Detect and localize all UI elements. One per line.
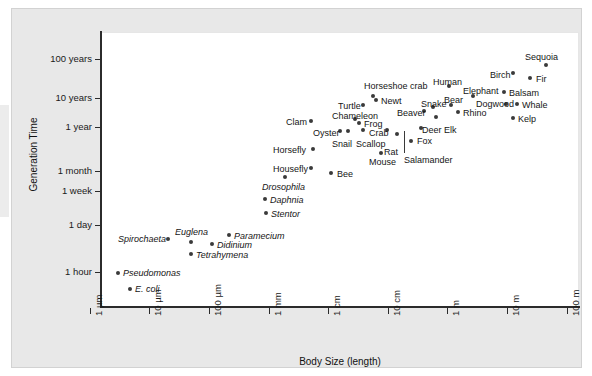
data-point-label: Rhino — [463, 109, 487, 118]
data-point-label: Kelp — [518, 115, 536, 124]
data-point-label: Bear — [444, 96, 463, 105]
y-tick-mark — [95, 127, 101, 128]
rat-leader-line — [404, 131, 405, 153]
data-point-label: Horsefly — [273, 146, 306, 155]
data-point-label: Tetrahymena — [196, 251, 248, 260]
data-point — [361, 103, 365, 107]
data-point — [379, 151, 383, 155]
y-tick-label-wrap: 1 month — [12, 166, 92, 176]
y-tick-mark — [95, 272, 101, 273]
data-point — [264, 211, 268, 215]
y-tick-mark — [95, 191, 101, 192]
data-point — [116, 271, 120, 275]
y-axis-title: Generation Time — [28, 95, 39, 215]
y-tick-mark — [95, 59, 101, 60]
data-point-label: Daphnia — [270, 196, 304, 205]
figure-root: 100 years10 years1 year1 month1 week1 da… — [0, 0, 592, 376]
data-point-label: Scallop — [356, 140, 386, 149]
data-point-label: Drosophila — [262, 183, 305, 192]
data-point-label: Bee — [337, 170, 353, 179]
data-point — [456, 110, 460, 114]
x-tick-mark — [149, 308, 150, 314]
x-tick-label: 10 cm — [392, 290, 402, 316]
data-point — [227, 233, 231, 237]
x-tick-label: 100 m — [571, 290, 581, 316]
x-tick-label: 10 m — [511, 295, 521, 316]
data-point — [434, 115, 438, 119]
data-point-label: Sequoia — [525, 53, 558, 62]
data-point — [409, 139, 413, 143]
x-tick-label: 1 mm — [273, 292, 283, 316]
data-point — [309, 119, 313, 123]
data-point-label: Dogwood — [476, 100, 514, 109]
data-point-label: Human — [433, 78, 462, 87]
x-tick-label: 1 m — [451, 300, 461, 316]
y-tick-label: 100 years — [50, 54, 92, 64]
data-point — [357, 121, 361, 125]
y-tick-label: 1 day — [69, 220, 92, 230]
data-point-label: Salamander — [404, 156, 453, 165]
chart-card: 100 years10 years1 year1 month1 week1 da… — [11, 8, 582, 368]
data-point-label: Clam — [286, 118, 307, 127]
data-point-label: Oyster — [313, 129, 340, 138]
y-tick-mark — [95, 98, 101, 99]
y-tick-mark — [95, 171, 101, 172]
data-point-label: Whale — [522, 101, 548, 110]
data-point — [263, 197, 267, 201]
data-point-label: Didinium — [217, 241, 252, 250]
data-point-label: Stentor — [271, 210, 300, 219]
y-tick-mark — [95, 225, 101, 226]
data-point-label: Fir — [536, 75, 547, 84]
page-gutter-band — [0, 105, 9, 217]
x-tick-mark — [447, 308, 448, 314]
x-tick-label: 100 µm — [213, 284, 223, 316]
x-tick-label: 1 cm — [332, 295, 342, 316]
page-gutter — [0, 0, 11, 376]
y-axis-line — [100, 31, 102, 308]
data-point-label: Elephant — [463, 87, 499, 96]
data-point — [189, 252, 193, 256]
data-point-label: E. coli — [135, 285, 160, 294]
data-point-label: Balsam — [509, 89, 539, 98]
data-point — [502, 90, 506, 94]
data-point — [515, 102, 519, 106]
data-point — [395, 132, 399, 136]
x-tick-mark — [567, 308, 568, 314]
y-tick-label: 1 hour — [65, 267, 92, 277]
data-point — [511, 71, 515, 75]
x-tick-mark — [209, 308, 210, 314]
data-point-label: Spirochaeta — [118, 235, 166, 244]
data-point-label: Pseudomonas — [123, 269, 181, 278]
y-tick-label-wrap: 10 years — [12, 93, 92, 103]
data-point-label: Birch — [490, 71, 511, 80]
data-point — [374, 98, 378, 102]
data-point-label: Euglena — [175, 228, 208, 237]
data-point — [189, 240, 193, 244]
data-point-label: Deer Elk — [422, 126, 457, 135]
data-point — [511, 116, 515, 120]
data-point-label: Snail — [332, 140, 352, 149]
data-point — [371, 94, 375, 98]
data-point-label: Rat — [384, 148, 398, 157]
x-tick-mark — [388, 308, 389, 314]
data-point — [329, 171, 333, 175]
y-tick-label-wrap: 100 years — [12, 54, 92, 64]
x-tick-mark — [507, 308, 508, 314]
x-tick-mark — [90, 308, 91, 314]
data-point — [346, 129, 350, 133]
data-point — [544, 63, 548, 67]
data-point — [166, 237, 170, 241]
x-axis-title: Body Size (length) — [101, 356, 579, 367]
data-point — [210, 242, 214, 246]
y-tick-label-wrap: 1 day — [12, 220, 92, 230]
data-point-label: Newt — [381, 97, 402, 106]
data-point-label: Turtle — [338, 102, 361, 111]
data-point-label: Snake — [421, 100, 447, 109]
data-point — [311, 147, 315, 151]
x-tick-mark — [328, 308, 329, 314]
data-point — [283, 175, 287, 179]
y-tick-label-wrap: 1 hour — [12, 267, 92, 277]
data-point-label: Housefly — [273, 165, 308, 174]
y-tick-label: 10 years — [56, 93, 92, 103]
data-point-label: Beaver — [397, 109, 426, 118]
